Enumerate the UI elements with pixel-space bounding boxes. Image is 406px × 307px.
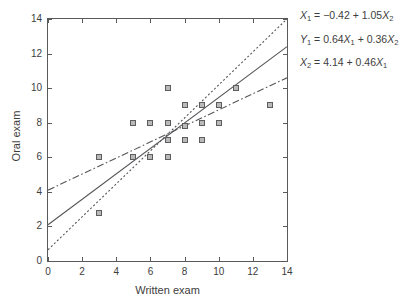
x-tick-mark-top: [48, 18, 49, 23]
scatter-point: [147, 120, 153, 126]
x-tick-mark-top: [116, 18, 117, 23]
equation-annotations: X1 = −0.42 + 1.05X2Y1 = 0.64X1 + 0.36X2X…: [300, 10, 406, 81]
x-tick-label: 0: [33, 266, 63, 277]
scatter-point: [216, 102, 222, 108]
scatter-point: [147, 154, 153, 160]
x-tick-label: 4: [101, 266, 131, 277]
y-tick-label: 2: [16, 220, 42, 231]
equation-2: Y1 = 0.64X1 + 0.36X2: [300, 34, 406, 47]
y-tick-mark: [47, 88, 52, 89]
regression-solid: [48, 47, 287, 225]
scatter-point: [130, 120, 136, 126]
y-tick-mark-right: [283, 226, 288, 227]
scatter-point: [165, 154, 171, 160]
scatter-point: [233, 85, 239, 91]
y-tick-mark-right: [283, 54, 288, 55]
equation-3: X2 = 4.14 + 0.46X1: [300, 57, 406, 70]
x-tick-mark: [116, 257, 117, 262]
x-tick-mark-top: [82, 18, 83, 23]
scatter-point: [96, 210, 102, 216]
y-tick-label: 4: [16, 186, 42, 197]
y-tick-mark: [47, 192, 52, 193]
x-tick-mark-top: [219, 18, 220, 23]
scatter-point: [165, 85, 171, 91]
x-tick-label: 12: [238, 266, 268, 277]
x-tick-mark-top: [150, 18, 151, 23]
x-tick-label: 8: [170, 266, 200, 277]
y-tick-mark: [47, 157, 52, 158]
chart-root: 0246810121402468101214 Written exam Oral…: [0, 0, 406, 307]
regression-dashdot: [48, 78, 287, 190]
x-tick-mark-top: [185, 18, 186, 23]
x-axis-title: Written exam: [47, 284, 288, 296]
equation-1: X1 = −0.42 + 1.05X2: [300, 10, 406, 23]
scatter-point: [267, 102, 273, 108]
y-tick-mark-right: [283, 123, 288, 124]
scatter-point: [182, 123, 188, 129]
scatter-point: [199, 120, 205, 126]
y-tick-mark: [47, 226, 52, 227]
x-tick-mark: [287, 257, 288, 262]
scatter-point: [96, 154, 102, 160]
x-tick-label: 6: [135, 266, 165, 277]
y-tick-mark: [47, 54, 52, 55]
scatter-point: [165, 137, 171, 143]
x-tick-label: 2: [67, 266, 97, 277]
y-tick-label: 0: [16, 255, 42, 266]
x-tick-mark-top: [287, 18, 288, 23]
scatter-point: [130, 154, 136, 160]
y-tick-mark-right: [283, 157, 288, 158]
x-tick-mark-top: [253, 18, 254, 23]
y-tick-mark-right: [283, 192, 288, 193]
x-tick-label: 14: [272, 266, 302, 277]
y-tick-mark-right: [283, 88, 288, 89]
scatter-point: [199, 102, 205, 108]
scatter-point: [199, 137, 205, 143]
x-tick-mark: [48, 257, 49, 262]
x-tick-mark: [219, 257, 220, 262]
y-tick-label: 12: [16, 48, 42, 59]
scatter-point: [182, 102, 188, 108]
y-tick-mark: [47, 123, 52, 124]
x-tick-mark: [150, 257, 151, 262]
scatter-point: [216, 120, 222, 126]
y-axis-title: Oral exam: [10, 86, 22, 186]
x-tick-label: 10: [204, 266, 234, 277]
x-tick-mark: [185, 257, 186, 262]
y-tick-label: 14: [16, 13, 42, 24]
x-tick-mark: [82, 257, 83, 262]
scatter-point: [165, 120, 171, 126]
x-tick-mark: [253, 257, 254, 262]
scatter-point: [182, 137, 188, 143]
regression-dotted: [48, 19, 287, 250]
